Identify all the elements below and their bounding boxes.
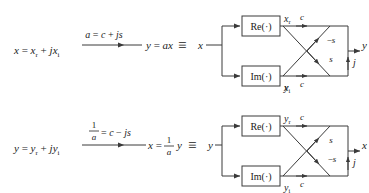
top-tap-label-top: xr	[283, 13, 291, 25]
bottom-tap-label-bottom: yi	[283, 182, 290, 193]
sum-j-label-bottom: j	[351, 157, 356, 168]
gain-cross-down-arrow-top	[307, 51, 319, 64]
equivalence-sign-bottom: ≡	[188, 137, 196, 153]
sum-j-label-top: j	[351, 57, 356, 68]
gain-bottom-straight-label-top: c	[300, 79, 304, 89]
gain-cross-up-arrow-top	[307, 38, 319, 51]
arrow-label-numerator-bottom: 1	[92, 120, 97, 130]
rhs-lead-bottom: x =	[147, 139, 162, 151]
lhs-equation-top: x = xr + jxi	[13, 44, 60, 59]
rhs-numerator-bottom: 1	[167, 135, 172, 145]
im-block-label-top: Im(·)	[250, 71, 271, 83]
re-block-label-bottom: Re(·)	[250, 121, 271, 133]
gain-cross-down-label-top: s	[329, 54, 333, 64]
block-diagram-bottom: y Re(·) Im(·) yr yi c c	[207, 112, 367, 193]
arrow-label-denominator-bottom: a	[92, 132, 97, 142]
top-tap-label-bottom: yr	[283, 113, 291, 125]
gain-top-straight-label-bottom: c	[300, 112, 304, 122]
rhs-equation-top: y = ax	[145, 39, 173, 51]
block-diagram-top: x Re(·) Im(·) xr y xi	[197, 12, 367, 94]
arrow-label-rest-bottom: = c − js	[101, 127, 131, 138]
row-forward: x = xr + jxi a = c + js y = ax ≡ x Re(·)	[13, 12, 367, 94]
output-label-bottom: x	[361, 139, 367, 151]
re-block-label-top: Re(·)	[250, 21, 271, 33]
gain-cross-down-label-bottom: −s	[328, 154, 337, 164]
lhs-equation-bottom: y = yr + jyi	[13, 142, 60, 157]
bottom-tap-label-top2: xi	[283, 82, 290, 94]
row-inverse: y = yr + jyi 1 a = c − js x = 1 a y ≡ y	[13, 112, 367, 193]
gain-cross-up-label-bottom: s	[329, 135, 333, 145]
im-block-label-bottom: Im(·)	[250, 171, 271, 183]
rhs-denominator-bottom: a	[167, 147, 172, 157]
gain-top-straight-label-top: c	[300, 12, 304, 22]
gain-cross-up-arrow-bottom	[307, 138, 319, 151]
input-label-bottom: y	[207, 139, 213, 151]
input-label-top: x	[197, 39, 203, 51]
output-label-top: y	[361, 39, 367, 51]
gain-cross-down-arrow-bottom	[307, 151, 319, 164]
gain-bottom-straight-label-bottom: c	[300, 179, 304, 189]
equivalence-sign-top: ≡	[178, 37, 186, 53]
rhs-tail-bottom: y	[176, 139, 182, 151]
arrow-label-top: a = c + js	[85, 29, 123, 40]
gain-cross-up-label-top: −s	[327, 35, 336, 45]
figure-root: x = xr + jxi a = c + js y = ax ≡ x Re(·)	[0, 0, 369, 193]
